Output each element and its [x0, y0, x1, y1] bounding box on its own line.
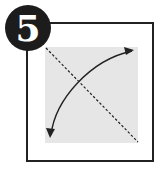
arrow-head-bottom — [46, 128, 55, 138]
fold-arrow — [51, 51, 132, 135]
step-number-badge: 5 — [5, 5, 51, 51]
arrow-head-top — [124, 47, 134, 55]
valley-fold-line — [46, 48, 138, 142]
